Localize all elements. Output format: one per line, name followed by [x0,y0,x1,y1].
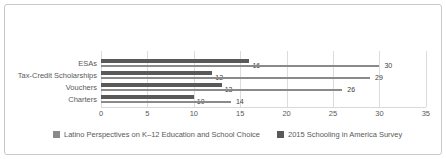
value-label-latino-perspectives: 30 [384,62,392,70]
bar-latino-perspectives [101,77,370,80]
x-tick-label: 30 [375,110,383,118]
gridline [426,51,427,107]
bar-schooling-in-america [101,83,222,87]
legend-marker-latino-perspectives-icon [53,131,60,138]
gridline [333,51,334,107]
legend-item-schooling-in-america: 2015 Schooling in America Survey [277,130,402,139]
chart-legend: Latino Perspectives on K–12 Education an… [5,129,441,141]
category-label: ESAs [5,60,97,68]
x-tick-label: 10 [190,110,198,118]
gridline [287,51,288,107]
bar-latino-perspectives [101,101,231,104]
bar-latino-perspectives [101,65,379,68]
value-label-latino-perspectives: 14 [236,98,244,106]
legend-item-latino-perspectives: Latino Perspectives on K–12 Education an… [53,130,260,139]
x-tick-label: 0 [99,110,103,118]
value-label-latino-perspectives: 26 [347,86,355,94]
x-axis-line [101,107,426,108]
bar-schooling-in-america [101,95,194,99]
bar-latino-perspectives [101,89,342,92]
legend-marker-schooling-in-america-icon [277,131,284,138]
x-tick-label: 5 [145,110,149,118]
x-tick-label: 15 [236,110,244,118]
value-label-latino-perspectives: 29 [375,74,383,82]
bar-schooling-in-america [101,71,212,75]
category-label: Vouchers [5,84,97,92]
x-tick-label: 35 [422,110,430,118]
x-tick-label: 20 [282,110,290,118]
chart-card: 05101520253035ESAs1630Tax-Credit Scholar… [4,4,442,155]
legend-label-schooling-in-america: 2015 Schooling in America Survey [288,130,402,139]
x-tick-label: 25 [329,110,337,118]
legend-label-latino-perspectives: Latino Perspectives on K–12 Education an… [64,130,260,139]
category-label: Charters [5,96,97,104]
bar-schooling-in-america [101,59,249,63]
category-label: Tax-Credit Scholarships [5,72,97,80]
